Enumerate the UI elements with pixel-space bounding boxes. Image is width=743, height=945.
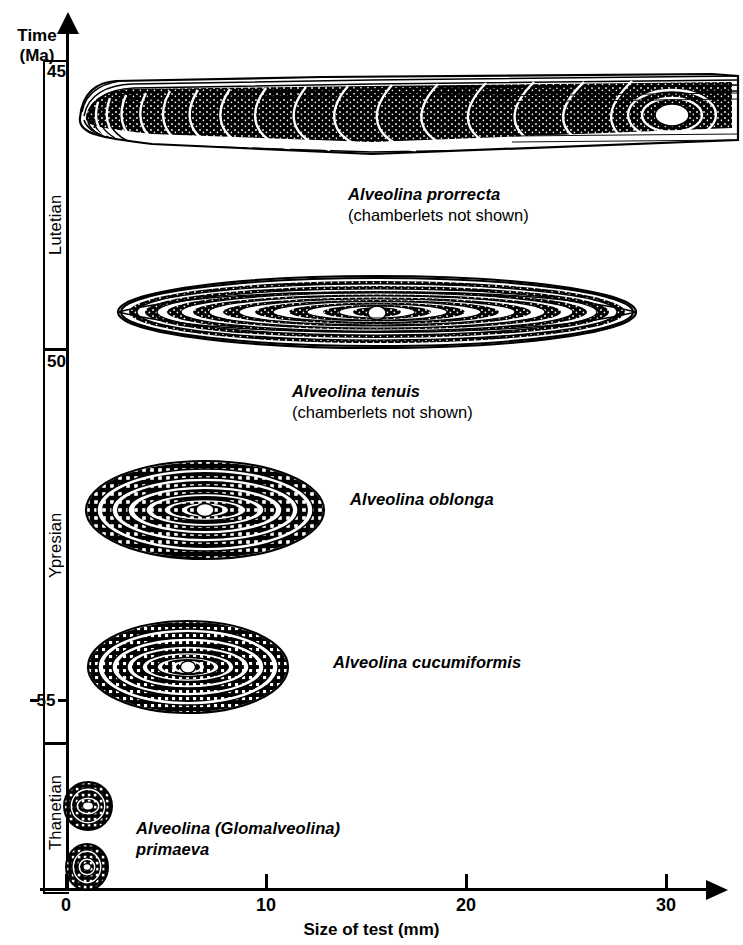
fossil-drawing-primaeva-upper [62,780,114,832]
specimen-name-prorrecta: Alveolina prorrecta [348,184,529,205]
fossil-drawing-oblonga [84,458,326,562]
specimen-name-primaeva: Alveolina (Glomalveolina)primaeva [136,818,340,860]
x-tick-label-20: 20 [446,895,486,916]
fossil-drawing-cucumiformis [86,618,290,716]
specimen-note-prorrecta: (chamberlets not shown) [348,205,529,226]
specimen-note-tenuis: (chamberlets not shown) [292,402,473,423]
specimen-name-cucumiformis: Alveolina cucumiformis [333,652,521,673]
stage-divider-lutetian-ypresian [43,348,67,351]
y-tick-mark-55-right [58,699,67,702]
x-axis-title: Size of test (mm) [0,920,743,940]
specimen-label-cucumiformis: Alveolina cucumiformis [333,652,521,673]
x-axis-line [40,888,712,891]
specimen-name-tenuis: Alveolina tenuis [292,381,473,402]
y-tick-label-55: 55 [34,691,58,711]
x-tick-label-0: 0 [46,895,86,916]
fossil-drawing-prorrecta [72,62,740,172]
y-axis-title-line1: Time [8,26,66,46]
x-tick-label-10: 10 [246,895,286,916]
x-tick-mark-30 [665,874,668,888]
stage-label-ypresian: Ypresian [43,430,67,660]
stage-divider-ypresian-thanetian [43,742,67,745]
x-tick-mark-20 [465,874,468,888]
specimen-label-tenuis: Alveolina tenuis (chamberlets not shown) [292,381,473,423]
fossil-drawing-primaeva-lower [64,842,110,892]
specimen-name-oblonga: Alveolina oblonga [350,489,494,510]
y-tick-label-50: 50 [38,352,66,372]
fossil-drawing-tenuis [116,272,638,356]
x-tick-mark-10 [265,874,268,888]
x-tick-label-30: 30 [646,895,686,916]
specimen-label-prorrecta: Alveolina prorrecta (chamberlets not sho… [348,184,529,226]
specimen-label-primaeva: Alveolina (Glomalveolina)primaeva [136,818,340,860]
specimen-label-oblonga: Alveolina oblonga [350,489,494,510]
stage-label-lutetian: Lutetian [43,120,67,330]
figure-canvas: Time (Ma) Lutetian Ypresian Thanetian 45… [0,0,743,945]
y-tick-label-45: 45 [38,62,66,82]
x-axis-arrow-icon [706,880,728,900]
